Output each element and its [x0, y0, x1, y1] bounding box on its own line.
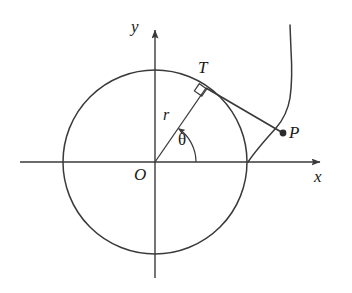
radius-segment-ot [155, 88, 206, 162]
theta-angle-label: θ [178, 131, 186, 148]
tangent-point-label: T [198, 59, 207, 76]
origin-label: O [134, 166, 146, 183]
point-p-marker [280, 130, 287, 137]
involute-circle-figure: y x O T P r θ [0, 0, 352, 293]
tangent-segment-tp [206, 88, 283, 133]
radius-label: r [163, 107, 169, 123]
y-axis-label: y [131, 18, 139, 35]
x-axis-label: x [314, 168, 322, 185]
curve-point-label: P [289, 124, 299, 141]
figure-canvas [0, 0, 352, 293]
involute-curve [248, 25, 292, 162]
